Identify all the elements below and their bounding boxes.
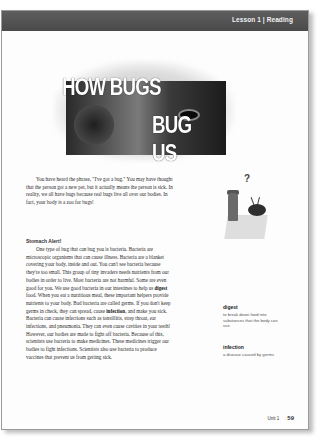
glossary-definition: a disease caused by germs	[223, 352, 283, 358]
question-mark-icon: ?	[244, 173, 250, 184]
bug-figure	[248, 204, 266, 216]
bug-image-icon	[74, 105, 114, 145]
vocab-digest: digest	[155, 285, 168, 291]
page-number: 59	[287, 415, 294, 421]
vocab-infection: infection	[106, 308, 125, 314]
textbook-page: Lesson 1 | Reading HOW BUGS BUG US You h…	[1, 10, 309, 430]
lesson-label: Lesson 1 | Reading	[232, 16, 293, 23]
glossary-entry-digest: digest to break down food into substance…	[223, 304, 283, 329]
glossary-term: infection	[223, 344, 283, 350]
glossary-entry-infection: infection a disease caused by germs	[223, 344, 283, 358]
person-figure	[228, 193, 238, 221]
intro-paragraph: You have heard the phrase, "I've got a b…	[26, 176, 174, 207]
glossary-definition: to break down food into substances that …	[223, 312, 283, 329]
header-band: Lesson 1 | Reading	[2, 11, 308, 31]
title-line-2: BUG US	[152, 111, 216, 167]
title-artwork: HOW BUGS BUG US	[54, 61, 234, 161]
glossary-term: digest	[223, 304, 283, 310]
unit-label: Unit 1	[268, 416, 280, 421]
bug-illustration-icon: ?	[224, 173, 268, 237]
title-line-1: HOW BUGS	[62, 73, 161, 101]
paragraph-text: , and make you sick. Bacteria can cause …	[26, 308, 170, 360]
paragraph-text: One type of bug that can bug you is bact…	[26, 246, 169, 291]
page-footer: Unit 1 59	[268, 415, 294, 421]
main-paragraph: One type of bug that can bug you is bact…	[26, 246, 174, 362]
section-subheading: Stomach Alert!	[26, 238, 61, 244]
